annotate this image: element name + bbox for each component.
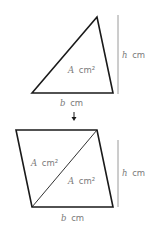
down-arrow-icon <box>72 112 77 121</box>
parallelogram-base-label: b cm <box>61 213 84 223</box>
area-diagram: A cm² h cm b cm A cm² A cm² h cm <box>0 0 155 238</box>
triangle-height-label: h cm <box>122 50 145 60</box>
parallelogram-figure: A cm² A cm² h cm b cm <box>16 130 145 223</box>
parallelogram-lower-area-label: A cm² <box>67 176 95 186</box>
triangle-area-label: A cm² <box>67 65 95 75</box>
triangle-figure: A cm² h cm b cm <box>32 15 145 108</box>
triangle <box>32 17 113 93</box>
parallelogram-height-label: h cm <box>122 168 145 178</box>
triangle-base-label: b cm <box>60 98 83 108</box>
parallelogram-upper-area-label: A cm² <box>30 158 58 168</box>
parallelogram-diagonal <box>32 130 97 207</box>
